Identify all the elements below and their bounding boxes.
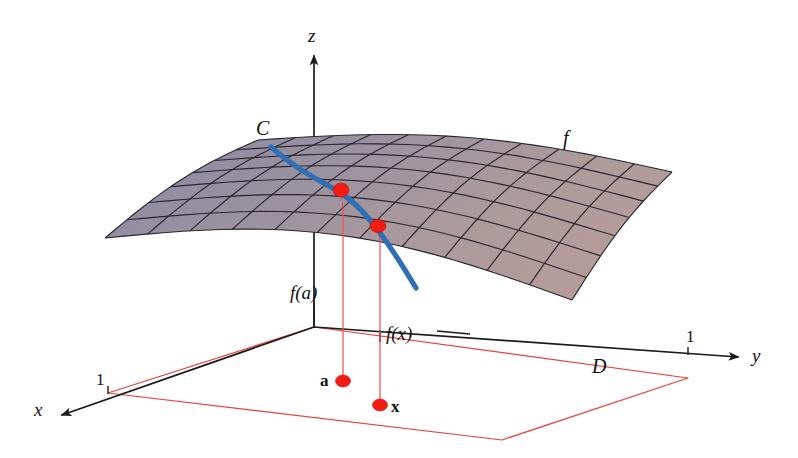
figure-canvas: z x y 1 1 C f D f(a) f(x) a x (0, 0, 798, 458)
surface-fill (105, 135, 672, 301)
y-axis-tick-one-label: 1 (686, 328, 695, 345)
f-of-x-label: f(x) (386, 324, 412, 343)
f-of-x-label-text: f(x) (386, 323, 412, 344)
y-axis (314, 327, 738, 357)
y-axis-label: y (752, 346, 760, 365)
point-a-label: a (320, 372, 329, 389)
point-f-a-surface-dot (333, 183, 349, 197)
point-x-label: x (391, 398, 400, 415)
surface-f-label: f (563, 128, 569, 148)
x-axis-tick-one-label: 1 (96, 371, 105, 388)
f-of-x-leader-line (437, 331, 470, 334)
point-f-x-surface-dot (370, 220, 386, 233)
x-axis-label: x (34, 400, 42, 419)
f-of-a-label: f(a) (290, 283, 317, 302)
surface-graph-f (105, 135, 672, 301)
domain-D-label: D (592, 356, 606, 376)
point-a-dot (336, 375, 351, 387)
point-x-dot (373, 399, 388, 411)
f-of-a-label-text: f(a) (290, 282, 317, 303)
z-axis-label: z (308, 26, 315, 45)
curve-C-label: C (256, 118, 269, 138)
diagram-svg (0, 0, 798, 458)
